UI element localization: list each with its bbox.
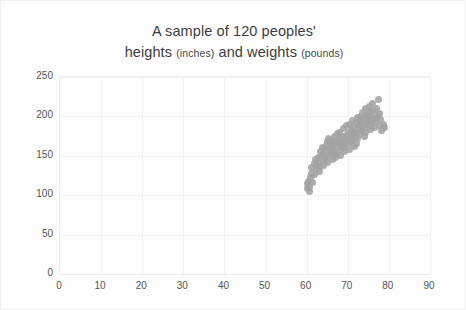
- gridline-vertical: [142, 77, 143, 274]
- gridline-horizontal: [60, 77, 430, 78]
- y-axis-tick-label: 0: [7, 268, 53, 278]
- gridline-vertical: [389, 77, 390, 274]
- y-axis-tick-label: 150: [7, 150, 53, 160]
- title-line-1: A sample of 120 peoples': [1, 21, 466, 42]
- title-heights-text: heights: [125, 44, 177, 60]
- gridline-vertical: [183, 77, 184, 274]
- scatter-point: [375, 96, 382, 103]
- title-line-2: heights (inches) and weights (pounds): [1, 42, 466, 64]
- x-axis-tick-label: 80: [368, 281, 408, 291]
- x-axis-tick-label: 20: [121, 281, 161, 291]
- y-axis-tick-label: 250: [7, 71, 53, 81]
- title-weights-text: and weights: [214, 44, 301, 60]
- gridline-horizontal: [60, 235, 430, 236]
- scatter-point: [381, 124, 388, 131]
- gridline-horizontal: [60, 195, 430, 196]
- gridline-vertical: [348, 77, 349, 274]
- chart-screenshot: A sample of 120 peoples' heights (inches…: [0, 0, 466, 310]
- scatter-point: [309, 179, 316, 186]
- gridline-vertical: [266, 77, 267, 274]
- title-pounds-unit: (pounds): [301, 47, 343, 59]
- x-axis-tick-label: 40: [203, 281, 243, 291]
- title-inches-unit: (inches): [176, 47, 214, 59]
- page-title: A sample of 120 peoples' heights (inches…: [1, 21, 466, 64]
- x-axis-tick-label: 60: [286, 281, 326, 291]
- y-axis-tick-label: 200: [7, 110, 53, 120]
- y-axis-tick-label: 100: [7, 189, 53, 199]
- plot-area: [59, 76, 431, 275]
- x-axis-tick-label: 70: [327, 281, 367, 291]
- x-axis-tick-label: 10: [80, 281, 120, 291]
- x-axis-tick-label: 90: [409, 281, 449, 291]
- gridline-vertical: [101, 77, 102, 274]
- x-axis-tick-label: 50: [245, 281, 285, 291]
- gridline-vertical: [430, 77, 431, 274]
- gridline-horizontal: [60, 156, 430, 157]
- y-axis-tick-label: 50: [7, 229, 53, 239]
- x-axis-tick-label: 0: [39, 281, 79, 291]
- x-axis-tick-label: 30: [162, 281, 202, 291]
- gridline-vertical: [224, 77, 225, 274]
